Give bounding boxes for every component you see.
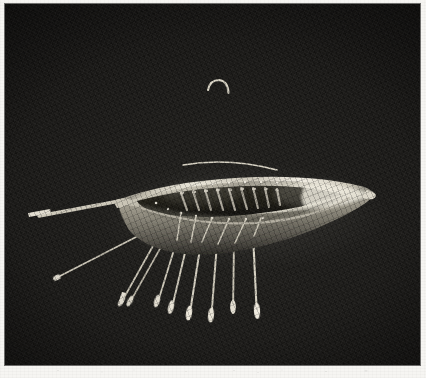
oar-1	[52, 236, 138, 282]
photographic-plate	[5, 4, 420, 365]
gold-model-boat	[5, 4, 420, 365]
caption-bleedthrough-marks	[10, 366, 410, 376]
hull-bloom-2	[161, 183, 241, 205]
mast-hook	[208, 80, 229, 93]
page: Monochrome photograph of a small gold mo…	[0, 0, 426, 378]
hull-bloom	[273, 182, 361, 208]
plate-alt-text: Monochrome photograph of a small gold mo…	[0, 16, 1, 17]
